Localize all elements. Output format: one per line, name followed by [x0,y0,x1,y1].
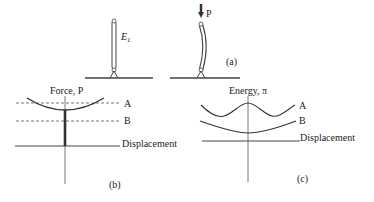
load-arrow-head [198,12,204,18]
column-label-e: E1 [120,31,131,44]
caption-a: (a) [226,56,237,68]
top-pin [112,19,116,23]
displacement-label-c: Displacement [300,132,355,143]
straight-column [112,21,116,69]
caption-c: (c) [297,173,308,185]
energy-axis-label: Energy, π [229,85,267,96]
post-buckling-curve [27,98,104,110]
buckling-diagram: E1 P (a) Force, P A B Displacement (b) E… [0,0,374,202]
top-pin-buckled [199,22,203,26]
load-label-p: P [206,8,212,19]
panel-c-energy-plot: Energy, π A B Displacement (c) [200,85,355,185]
label-b-c: B [299,115,306,126]
force-axis-label: Force, P [50,85,84,96]
label-a-c: A [299,100,307,111]
caption-b: (b) [109,179,121,191]
panel-a-straight-column: E1 [85,19,153,78]
label-b-b: B [124,115,131,126]
displacement-label-b: Displacement [122,138,177,149]
panel-b-force-plot: Force, P A B Displacement (b) [15,85,177,191]
label-a-b: A [124,98,132,109]
panel-a-buckled-column: P (a) [170,4,240,78]
